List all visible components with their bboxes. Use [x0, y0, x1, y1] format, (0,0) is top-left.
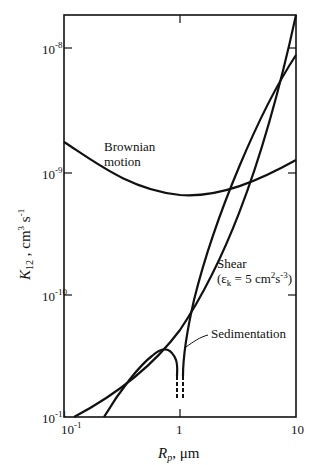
y-axis-label: K12 , cm3 s-1 [16, 209, 35, 281]
sedimentation-dashed-singularity [177, 376, 183, 399]
coagulation-kernel-chart: 10-8 10-9 10-10 10-11 10-1 1 10 Rp, μm K… [0, 0, 316, 465]
svg-text:10-1: 10-1 [61, 420, 82, 437]
svg-text:1: 1 [176, 422, 183, 437]
svg-text:10: 10 [291, 422, 304, 437]
shear-label: Shear [217, 256, 247, 271]
sedimentation-label: Sedimentation [211, 326, 287, 341]
sedimentation-curve-left [104, 349, 177, 417]
x-tick-labels: 10-1 1 10 [61, 420, 304, 437]
y-axis-ticks [64, 48, 296, 295]
brownian-label-2: motion [104, 154, 141, 169]
plot-frame [64, 15, 296, 417]
svg-text:10-9: 10-9 [42, 165, 63, 182]
svg-text:10-8: 10-8 [42, 40, 63, 57]
x-axis-label: Rp, μm [157, 445, 200, 463]
brownian-label: Brownian [104, 139, 156, 154]
shear-label-2: (εk = 5 cm2s-3) [217, 270, 292, 288]
sedimentation-leader-line [186, 335, 208, 347]
